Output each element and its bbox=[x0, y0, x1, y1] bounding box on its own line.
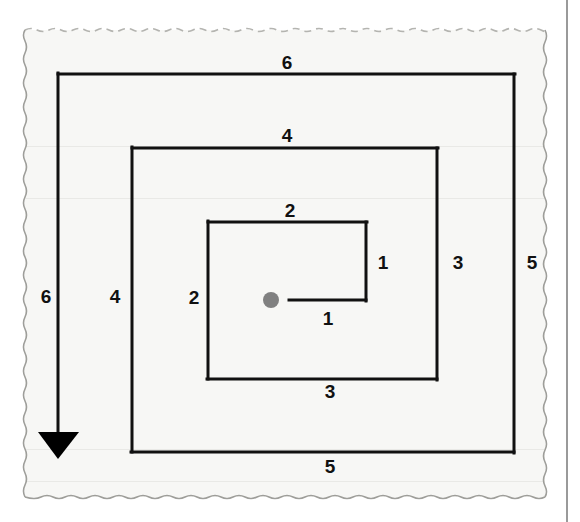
label-inner-right-1: 1 bbox=[378, 253, 389, 272]
label-mid-right-3: 3 bbox=[453, 253, 464, 272]
label-outer-right-5: 5 bbox=[527, 253, 538, 272]
label-inner-left-2: 2 bbox=[189, 288, 200, 307]
label-inner-bottom-1: 1 bbox=[323, 309, 334, 328]
label-inner-top-2: 2 bbox=[285, 201, 296, 220]
start-point-dot bbox=[263, 292, 279, 308]
label-outer-bottom-5: 5 bbox=[325, 457, 336, 476]
diagram-page: 1 1 2 2 3 3 4 4 5 5 6 6 bbox=[0, 0, 580, 522]
label-outer-top-6: 6 bbox=[282, 53, 293, 72]
end-arrowhead-icon bbox=[38, 432, 79, 459]
page-column-rule bbox=[566, 0, 568, 522]
label-outer-left-6: 6 bbox=[41, 287, 52, 306]
label-mid-top-4: 4 bbox=[282, 126, 293, 145]
label-mid-bottom-3: 3 bbox=[325, 382, 336, 401]
label-mid-left-4: 4 bbox=[110, 287, 121, 306]
spiral-figure bbox=[0, 0, 580, 522]
